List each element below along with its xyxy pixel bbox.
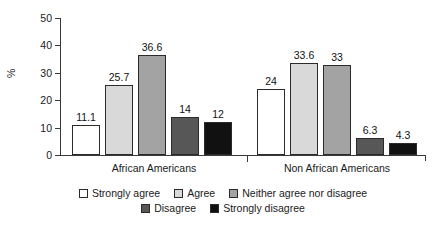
bar-column: 33.6 (290, 18, 318, 155)
category-label-non-african-americans: Non African Americans (248, 162, 426, 174)
legend-swatch-icon (229, 189, 238, 198)
legend-label: Agree (187, 188, 215, 199)
bar-column: 4.3 (389, 18, 417, 155)
bar-column: 33 (323, 18, 351, 155)
legend-item[interactable]: Strongly agree (79, 188, 160, 199)
x-axis-end-cap (425, 155, 426, 161)
legend-item[interactable]: Strongly disagree (210, 203, 305, 214)
y-axis-tick-label: 50 (40, 13, 52, 23)
y-axis-tick-label: 20 (40, 95, 52, 105)
legend-label: Strongly disagree (223, 203, 305, 214)
legend-label: Strongly agree (92, 188, 160, 199)
bar (356, 138, 384, 155)
y-axis-tick-label: 0 (46, 150, 52, 160)
bar-group-non-african-americans: 2433.6336.34.3 (60, 18, 425, 155)
y-axis-tick-label: 30 (40, 68, 52, 78)
bar (389, 143, 417, 155)
group-separator-tick (247, 155, 248, 162)
bar-value-label: 4.3 (381, 130, 425, 141)
legend-swatch-icon (174, 189, 183, 198)
legend-swatch-icon (79, 189, 88, 198)
legend-label: Disagree (154, 203, 196, 214)
bar (257, 89, 285, 155)
bar-column: 6.3 (356, 18, 384, 155)
legend-item[interactable]: Disagree (141, 203, 196, 214)
bar-chart: % 01020304050 11.125.736.61412 2433.6336… (0, 0, 446, 232)
legend-label: Neither agree nor disagree (242, 188, 367, 199)
y-axis-tick-label: 10 (40, 123, 52, 133)
x-axis-line (60, 155, 426, 156)
legend-swatch-icon (141, 204, 150, 213)
legend-row-bottom: DisagreeStrongly disagree (0, 201, 446, 216)
legend-item[interactable]: Agree (174, 188, 215, 199)
plot-area: 11.125.736.61412 2433.6336.34.3 (60, 18, 425, 155)
y-axis-title: % (5, 69, 17, 78)
chart-legend: Strongly agreeAgreeNeither agree nor dis… (0, 186, 446, 216)
bar (290, 63, 318, 155)
bar (323, 65, 351, 155)
legend-swatch-icon (210, 204, 219, 213)
bar-value-label: 24 (249, 76, 293, 87)
legend-row-top: Strongly agreeAgreeNeither agree nor dis… (0, 186, 446, 201)
y-axis-tick (55, 155, 60, 156)
y-axis-tick-label: 40 (40, 40, 52, 50)
legend-item[interactable]: Neither agree nor disagree (229, 188, 367, 199)
category-label-african-americans: African Americans (60, 162, 248, 174)
bar-column: 24 (257, 18, 285, 155)
bar-value-label: 33 (315, 52, 359, 63)
